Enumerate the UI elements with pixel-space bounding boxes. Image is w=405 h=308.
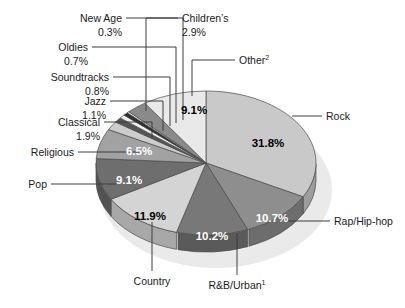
label-classical: Classical — [58, 116, 100, 128]
label-rap: Rap/Hip-hop — [334, 215, 393, 227]
label-children-pct: 2.9% — [182, 26, 206, 38]
value-rock: 31.8% — [252, 137, 285, 149]
label-oldies: Oldies — [58, 41, 88, 53]
label-rnb-superscript: 1 — [262, 279, 266, 286]
label-religious: Religious — [31, 146, 74, 158]
value-pop: 9.1% — [116, 174, 142, 186]
label-children: Children’s — [182, 12, 229, 24]
label-new-age-pct: 0.3% — [98, 26, 122, 38]
label-rnb-text: R&B/Urban — [208, 279, 261, 291]
label-new-age: New Age — [80, 12, 122, 24]
label-classical-pct: 1.9% — [76, 130, 100, 142]
pie-chart-figure: Rock 31.8%Rap/Hip-hop 10.7%R&B/Urban 10.… — [0, 0, 405, 308]
label-rock: Rock — [326, 110, 351, 122]
value-rnb: 10.2% — [196, 230, 229, 242]
value-other: 9.1% — [181, 104, 207, 116]
label-jazz: Jazz — [84, 95, 106, 107]
label-rnb: R&B/Urban1 — [208, 279, 265, 291]
label-other-superscript: 2 — [265, 54, 269, 61]
label-country: Country — [134, 275, 172, 287]
value-rap: 10.7% — [256, 212, 289, 224]
pie-chart-svg: Rock 31.8%Rap/Hip-hop 10.7%R&B/Urban 10.… — [0, 0, 405, 308]
label-other-text: Other — [239, 54, 266, 66]
value-religious: 6.5% — [126, 145, 152, 157]
label-oldies-pct: 0.7% — [64, 55, 88, 67]
label-soundtracks: Soundtracks — [51, 71, 109, 83]
leader-other — [192, 60, 235, 96]
label-other: Other2 — [239, 54, 269, 66]
value-country: 11.9% — [134, 210, 166, 222]
label-pop: Pop — [28, 178, 47, 190]
